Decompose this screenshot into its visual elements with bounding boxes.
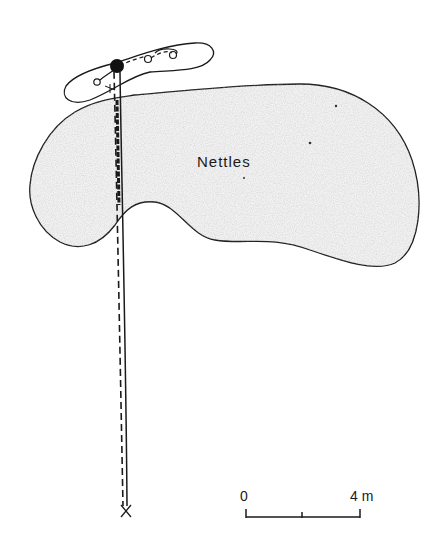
start-cross-marker xyxy=(121,505,131,517)
nettles-area-label: Nettles xyxy=(197,153,251,170)
scale-min-label: 0 xyxy=(240,488,248,504)
nettles-path-diagram xyxy=(0,0,440,560)
target-marker xyxy=(110,59,124,73)
nettle-patch xyxy=(30,84,419,266)
scale-bar xyxy=(246,509,360,518)
scale-max-label: 4 m xyxy=(350,488,373,504)
